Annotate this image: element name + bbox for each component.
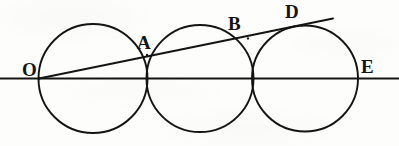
marked-points-group xyxy=(38,24,359,79)
point-label-o: O xyxy=(22,60,37,79)
point-E xyxy=(357,77,359,79)
point-A xyxy=(146,54,148,56)
geometry-figure: OABDE xyxy=(0,0,399,146)
point-label-e: E xyxy=(361,57,374,76)
point-O xyxy=(38,77,40,79)
figure-canvas xyxy=(0,0,399,146)
point-label-a: A xyxy=(137,33,151,52)
point-label-d: D xyxy=(285,2,299,21)
point-label-b: B xyxy=(228,14,241,33)
point-D xyxy=(301,24,303,26)
point-B xyxy=(247,37,249,39)
